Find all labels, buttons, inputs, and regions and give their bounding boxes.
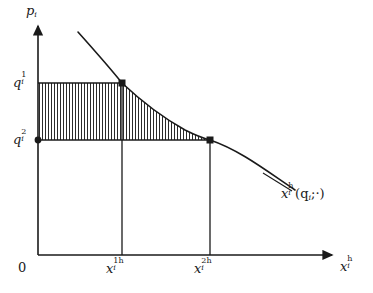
y-tick-label-q-i-1: q1i — [13, 74, 28, 89]
origin-label: 0 — [18, 261, 26, 274]
marker-q2-axis — [35, 137, 42, 144]
y-axis-label: pi — [26, 4, 37, 19]
y-tick-label-q-i-2: q2i — [13, 131, 28, 146]
x-tick-label-x-i-2h: x2hi — [194, 260, 208, 275]
marker-q1-x1h — [119, 80, 126, 87]
hatched-surplus-region — [38, 83, 210, 140]
hicksian-demand-figure: pi q1i q2i 0 x1hi x2hi xhi xhi(qi;·) — [0, 0, 373, 293]
figure-canvas — [0, 0, 373, 293]
x-axis-label: xhi — [340, 258, 354, 273]
marker-q2-x2h — [207, 137, 214, 144]
x-tick-label-x-i-1h: x1hi — [106, 260, 120, 275]
demand-curve-label: xhi(qi;·) — [281, 185, 325, 202]
